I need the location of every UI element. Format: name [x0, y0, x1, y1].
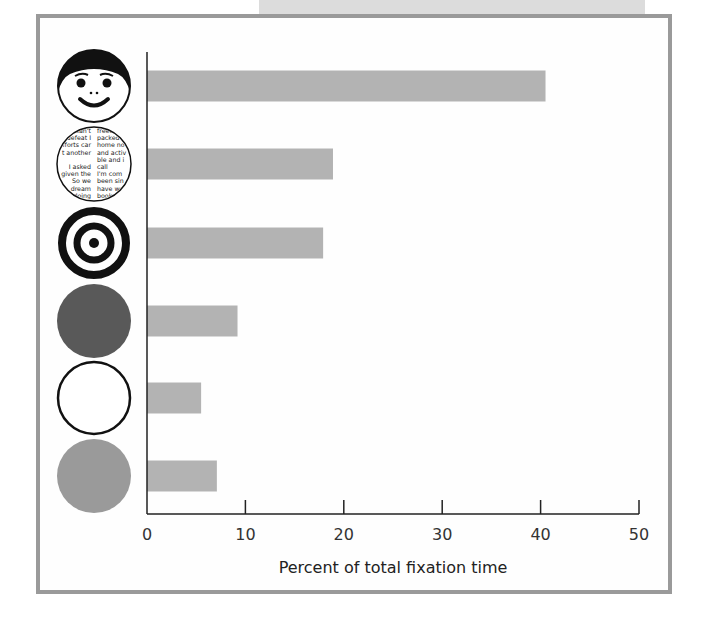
bar-text-pattern: [147, 149, 333, 180]
svg-text:been sin: been sin: [97, 177, 124, 184]
x-axis-ticks: 01020304050: [142, 500, 649, 544]
svg-text:t another: t another: [62, 149, 92, 156]
svg-text:I'm com: I'm com: [97, 170, 122, 177]
bullseye-icon: [62, 211, 126, 275]
svg-text:dream: dream: [71, 185, 91, 192]
face-icon: [58, 50, 130, 122]
x-tick-label: 50: [629, 525, 649, 544]
bars-group: [147, 71, 546, 492]
bar-outline-circle: [147, 383, 201, 414]
svg-text:I asked: I asked: [69, 163, 91, 170]
svg-text:home no: home no: [97, 141, 125, 148]
x-tick-label: 0: [142, 525, 152, 544]
svg-text:So we: So we: [72, 177, 91, 184]
fixation-chart: 01020304050 Percent of total fixation ti…: [0, 0, 702, 629]
x-tick-label: 10: [235, 525, 255, 544]
bar-face: [147, 71, 546, 102]
x-axis-title: Percent of total fixation time: [279, 558, 508, 577]
svg-text:ble and i: ble and i: [97, 156, 124, 163]
svg-text:call: call: [97, 163, 108, 170]
bar-dark-disc: [147, 306, 238, 337]
x-tick-label: 30: [432, 525, 452, 544]
x-tick-label: 20: [334, 525, 354, 544]
gray-disc-icon: [57, 439, 131, 513]
text-pattern-icon: can'tfreedodefeat Ipackedefforts carhome…: [57, 127, 131, 201]
bar-gray-disc: [147, 461, 217, 492]
bar-bullseye: [147, 228, 323, 259]
svg-text:and activ: and activ: [97, 149, 126, 156]
x-tick-label: 40: [530, 525, 550, 544]
outline-circle-icon: [58, 362, 130, 434]
dark-disc-icon: [57, 284, 131, 358]
